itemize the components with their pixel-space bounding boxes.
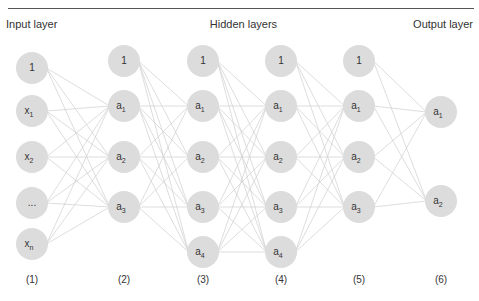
neuron-subscript: 3 xyxy=(201,207,205,214)
layer-number-5: (5) xyxy=(353,274,365,285)
layer-numbers: (1)(2)(3)(4)(5)(6) xyxy=(26,274,447,285)
neuron-subscript: 1 xyxy=(201,106,205,113)
edge-l5n2-l6n1 xyxy=(373,157,426,201)
neuron-label: 1 xyxy=(200,55,206,66)
edge-l3n0-l4n3 xyxy=(217,61,266,207)
edge-l2n0-l3n2 xyxy=(138,61,188,157)
neuron-subscript: 2 xyxy=(201,157,205,164)
neuron-layer2-1: a1 xyxy=(108,90,140,122)
neuron-subscript: 1 xyxy=(122,106,126,113)
neuron-layer5-3: a3 xyxy=(343,191,375,223)
neuron-label: 1 xyxy=(29,62,35,73)
edge-l1n4-l2n3 xyxy=(46,207,109,244)
neuron-subscript: 2 xyxy=(357,157,361,164)
neuron-layer3-3: a3 xyxy=(187,191,219,223)
neuron-layer2-3: a3 xyxy=(108,191,140,223)
neuron-subscript: 2 xyxy=(279,157,283,164)
layer-number-3: (3) xyxy=(197,274,209,285)
neuron-layer1-2: x2 xyxy=(16,141,48,173)
neuron-layer1-3: ... xyxy=(16,187,48,219)
layer-number-6: (6) xyxy=(435,274,447,285)
edge-l5n1-l6n1 xyxy=(373,106,426,201)
neuron-subscript: 3 xyxy=(279,207,283,214)
layer-number-2: (2) xyxy=(118,274,130,285)
edge-l2n2-l3n4 xyxy=(138,157,188,252)
neuron-subscript: 3 xyxy=(122,207,126,214)
neuron-layer5-0: 1 xyxy=(343,45,375,77)
neuron-label: ... xyxy=(28,197,36,208)
neuron-subscript: 4 xyxy=(279,252,283,259)
neuron-layer4-2: a2 xyxy=(265,141,297,173)
neuron-layer5-2: a2 xyxy=(343,141,375,173)
neuron-subscript: 1 xyxy=(439,112,443,119)
neuron-subscript: 1 xyxy=(30,111,34,118)
neuron-label: 1 xyxy=(121,55,127,66)
edge-l4n0-l5n2 xyxy=(295,61,344,157)
layer-number-1: (1) xyxy=(26,274,38,285)
neuron-label: 1 xyxy=(278,55,284,66)
edge-l1n1-l2n1 xyxy=(46,106,109,111)
layer-number-4: (4) xyxy=(275,274,287,285)
neuron-subscript: 4 xyxy=(201,252,205,259)
neuron-layer1-0: 1 xyxy=(16,52,48,84)
edge-l5n0-l6n1 xyxy=(373,61,426,201)
neuron-subscript: 1 xyxy=(357,106,361,113)
edge-l1n4-l2n1 xyxy=(46,106,109,244)
neuron-layer4-4: a4 xyxy=(265,236,297,268)
edge-l5n3-l6n1 xyxy=(373,201,426,207)
neuron-layer4-0: 1 xyxy=(265,45,297,77)
edge-l1n4-l2n2 xyxy=(46,157,109,244)
neuron-layer1-4: xn xyxy=(16,228,48,260)
edge-l5n3-l6n0 xyxy=(373,112,426,207)
edge-l1n2-l2n3 xyxy=(46,157,109,207)
neuron-layer4-1: a1 xyxy=(265,90,297,122)
neuron-layer6-1: a2 xyxy=(425,185,457,217)
edge-l5n2-l6n0 xyxy=(373,112,426,157)
neuron-subscript: 2 xyxy=(30,157,34,164)
neuron-layer2-2: a2 xyxy=(108,141,140,173)
neuron-layer6-0: a1 xyxy=(425,96,457,128)
edge-l5n0-l6n0 xyxy=(373,61,426,112)
edge-l1n0-l2n3 xyxy=(46,68,109,207)
neuron-subscript: 1 xyxy=(279,106,283,113)
neuron-subscript: 2 xyxy=(122,157,126,164)
edge-l3n0-l4n2 xyxy=(217,61,266,157)
edge-l1n3-l2n2 xyxy=(46,157,109,203)
neuron-layer3-2: a2 xyxy=(187,141,219,173)
edge-l2n0-l3n3 xyxy=(138,61,188,207)
neuron-layer1-1: x1 xyxy=(16,95,48,127)
neuron-subscript: 2 xyxy=(439,201,443,208)
neuron-layer2-0: 1 xyxy=(108,45,140,77)
neuron-layer5-1: a1 xyxy=(343,90,375,122)
edge-l1n0-l2n2 xyxy=(46,68,109,157)
neuron-layer4-3: a3 xyxy=(265,191,297,223)
edge-l1n3-l2n1 xyxy=(46,106,109,203)
neuron-layer3-4: a4 xyxy=(187,236,219,268)
edge-l1n1-l2n3 xyxy=(46,111,109,207)
edge-l4n0-l5n3 xyxy=(295,61,344,207)
neuron-layer3-1: a1 xyxy=(187,90,219,122)
edge-l1n2-l2n1 xyxy=(46,106,109,157)
edge-l1n1-l2n2 xyxy=(46,111,109,157)
neuron-subscript: n xyxy=(30,244,34,251)
edge-l4n4-l5n1 xyxy=(295,106,344,252)
edge-l5n1-l6n0 xyxy=(373,106,426,112)
edge-l4n4-l5n2 xyxy=(295,157,344,252)
neuron-subscript: 3 xyxy=(357,207,361,214)
neuron-layer3-0: 1 xyxy=(187,45,219,77)
edge-l2n1-l3n4 xyxy=(138,106,188,252)
edge-l1n0-l2n1 xyxy=(46,68,109,106)
network-diagram: 1x1x2...xn1a1a2a31a1a2a3a41a1a2a3a41a1a2… xyxy=(0,0,479,301)
edge-l1n3-l2n3 xyxy=(46,203,109,207)
neuron-label: 1 xyxy=(356,55,362,66)
